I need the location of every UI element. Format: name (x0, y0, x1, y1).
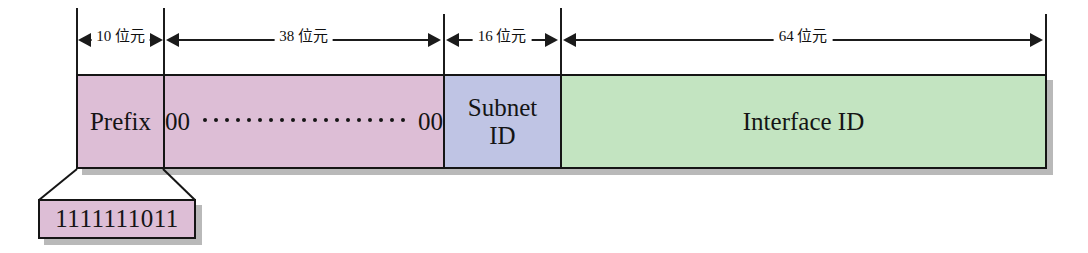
arrowhead-right (1030, 33, 1043, 47)
field-zeros: 00 00 (163, 74, 445, 169)
dimension-interface-label: 64 位元 (774, 27, 833, 45)
dimension-subnet: 16 位元 (446, 31, 558, 49)
dimension-interface: 64 位元 (563, 31, 1043, 49)
field-zeros-label-right: 00 (418, 108, 443, 136)
field-zeros-label-left: 00 (165, 108, 190, 136)
address-bar: Prefix 00 00 Subnet ID Interface ID (76, 74, 1047, 169)
dimension-subnet-label: 16 位元 (473, 27, 532, 45)
dimension-prefix: 10 位元 (78, 31, 163, 49)
arrowhead-right (545, 33, 558, 47)
arrowhead-left (446, 33, 459, 47)
field-subnet-id: Subnet ID (443, 74, 562, 169)
tick-mark-subnet-end (560, 8, 562, 76)
field-zeros-content: 00 00 (165, 108, 443, 136)
field-subnet-id-label: Subnet ID (468, 94, 537, 150)
tick-mark-interface-end (1045, 14, 1047, 76)
tick-mark-zeros-end (443, 14, 445, 76)
arrowhead-left (166, 33, 179, 47)
field-interface-id: Interface ID (560, 74, 1047, 169)
ipv6-address-format-diagram: 10 位元 38 位元 16 位元 64 位元 Prefix 00 (0, 0, 1088, 253)
dimension-prefix-label: 10 位元 (91, 27, 150, 45)
callout-prefix-bits-value: 1111111011 (55, 205, 179, 233)
arrowhead-right (150, 33, 163, 47)
callout-prefix-bits: 1111111011 (38, 199, 196, 239)
field-prefix: Prefix (76, 74, 165, 169)
dimension-zeros: 38 位元 (166, 31, 441, 49)
arrowhead-left (563, 33, 576, 47)
arrowhead-left (78, 33, 91, 47)
field-subnet-id-label-line1: Subnet (468, 94, 537, 121)
dimension-zeros-label: 38 位元 (274, 27, 333, 45)
tick-mark-prefix-end (163, 8, 165, 76)
field-interface-id-label: Interface ID (743, 108, 864, 136)
field-subnet-id-label-line2: ID (489, 122, 515, 149)
arrowhead-right (428, 33, 441, 47)
field-prefix-label: Prefix (90, 108, 151, 136)
ellipsis-dots (199, 118, 409, 126)
